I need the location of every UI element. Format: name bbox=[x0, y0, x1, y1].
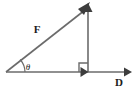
angle-arc-icon bbox=[20, 60, 25, 73]
force-vector-label: F bbox=[34, 23, 41, 35]
displacement-arrowhead-icon bbox=[124, 68, 132, 77]
angle-theta-label: θ bbox=[26, 62, 31, 72]
vector-diagram-figure: F D θ bbox=[0, 0, 135, 90]
vector-diagram-canvas: F D θ bbox=[0, 0, 135, 90]
displacement-vector-label: D bbox=[115, 76, 123, 88]
force-vector-line bbox=[6, 10, 85, 72]
